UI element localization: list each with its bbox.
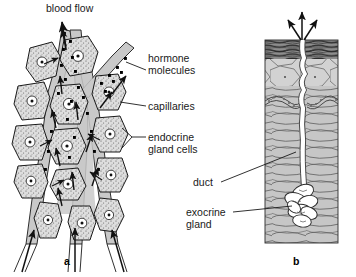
exocrine-gland-panel: b	[265, 12, 338, 267]
figure-container: a blood flow hormone molecules capillari…	[0, 0, 356, 277]
panel-a-letter: a	[64, 255, 70, 267]
hormone-molecules-label-line2: molecules	[148, 64, 195, 76]
hormone-molecules-label-line1: hormone	[148, 52, 190, 64]
blood-flow-label: blood flow	[46, 2, 94, 14]
exocrine-gland-label-line1: exocrine	[186, 206, 226, 218]
panel-b-letter: b	[293, 255, 299, 267]
duct-lumen	[301, 38, 305, 186]
endocrine-gland-cells-label-line1: endocrine	[148, 131, 194, 143]
duct-label: duct	[193, 176, 213, 188]
endocrine-gland-cells-label-line2: gland cells	[148, 143, 198, 155]
endocrine-gland-panel: a	[12, 22, 134, 272]
diagram-canvas: a blood flow hormone molecules capillari…	[0, 0, 356, 277]
exocrine-gland-label-line2: gland	[186, 218, 212, 230]
capillaries-label: capillaries	[148, 100, 195, 112]
